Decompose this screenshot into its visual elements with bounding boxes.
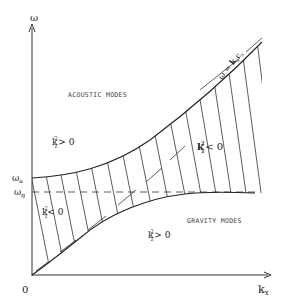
y-axis: [29, 24, 35, 276]
kz2-negative-right: k2z< 0: [197, 140, 223, 154]
x-axis-label: kx: [258, 283, 269, 297]
omega-g-label: ωg: [14, 187, 25, 199]
origin-label: 0: [22, 284, 28, 295]
y-axis-label: ω: [30, 12, 38, 23]
gravity-cutoff-curve: [32, 192, 255, 275]
kz2-positive-lower: k2z> 0: [148, 228, 171, 242]
dispersion-diagram: ω 0 kx ωa ωg ACOUSTIC MODES GRAVITY MODE…: [0, 0, 281, 306]
kz2-negative-left: k2z< 0: [42, 205, 64, 219]
asymptote-label: ω = kxcs: [216, 48, 246, 82]
gravity-modes-label: GRAVITY MODES: [187, 217, 242, 225]
omega-a-label: ωa: [12, 173, 23, 184]
kz2-positive-upper: k2z> 0: [52, 135, 75, 149]
acoustic-modes-label: ACOUSTIC MODES: [68, 91, 127, 99]
x-axis: [32, 272, 271, 278]
